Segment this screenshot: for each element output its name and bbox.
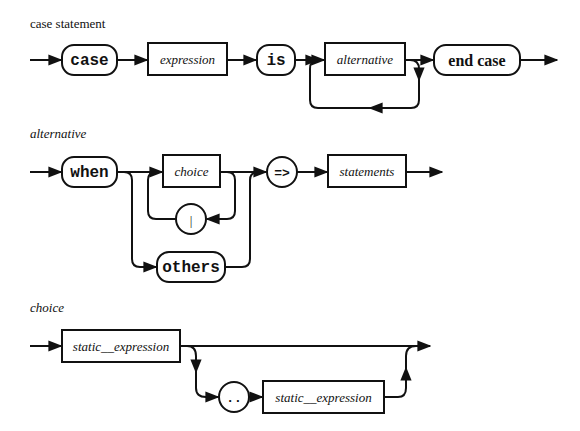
- svg-text:others: others: [162, 259, 220, 277]
- loop-up-arrow: [310, 60, 318, 82]
- svg-text:alternative: alternative: [337, 52, 394, 67]
- svg-text:expression: expression: [160, 52, 215, 67]
- loop-back-arrow: [370, 78, 419, 108]
- svg-text:is: is: [266, 52, 285, 70]
- svg-text:|: |: [190, 213, 193, 228]
- loop-down-arrow: [405, 60, 419, 80]
- terminal-bar: |: [176, 204, 206, 234]
- svg-text:static__expression: static__expression: [275, 390, 371, 405]
- nonterminal-statements: statements: [328, 155, 406, 187]
- terminal-end-case: end case: [434, 45, 520, 75]
- diagram-title-case-statement: case statement: [30, 16, 106, 31]
- svg-text:when: when: [70, 164, 108, 182]
- range-merge-line: [406, 346, 416, 370]
- svg-text:choice: choice: [175, 164, 209, 179]
- nonterminal-choice: choice: [163, 155, 220, 187]
- nonterminal-static-expression-2: static__expression: [263, 381, 384, 413]
- diagram-title-alternative: alternative: [30, 126, 87, 141]
- range-return-up-arrow: [384, 368, 406, 397]
- range-branch-down-arrow: [180, 346, 196, 372]
- case-statement-diagram: case statement case expression is altern…: [30, 16, 557, 108]
- nonterminal-expression: expression: [148, 43, 227, 75]
- diagram-title-choice: choice: [30, 300, 64, 315]
- others-branch-arrow: [124, 172, 156, 267]
- svg-text:=>: =>: [274, 166, 290, 181]
- terminal-arrow-symbol: =>: [267, 157, 297, 187]
- terminal-when: when: [62, 157, 117, 187]
- loop-return-line: [310, 80, 372, 108]
- svg-text:static__expression: static__expression: [73, 339, 169, 354]
- terminal-case: case: [62, 45, 117, 75]
- range-branch-arrow: [196, 370, 218, 397]
- terminal-is: is: [257, 45, 295, 75]
- alternative-diagram: alternative when choice | others =>: [30, 126, 442, 282]
- terminal-range-dots: ..: [219, 382, 249, 412]
- svg-text:end case: end case: [448, 52, 505, 69]
- syntax-diagrams: case statement case expression is altern…: [0, 0, 580, 431]
- terminal-others: others: [157, 252, 225, 282]
- svg-text:case: case: [70, 52, 108, 70]
- nonterminal-static-expression: static__expression: [62, 330, 180, 362]
- svg-text:..: ..: [226, 391, 242, 406]
- svg-text:statements: statements: [340, 164, 395, 179]
- nonterminal-alternative: alternative: [325, 43, 405, 75]
- choice-diagram: choice static__expression .. static__exp…: [30, 300, 430, 413]
